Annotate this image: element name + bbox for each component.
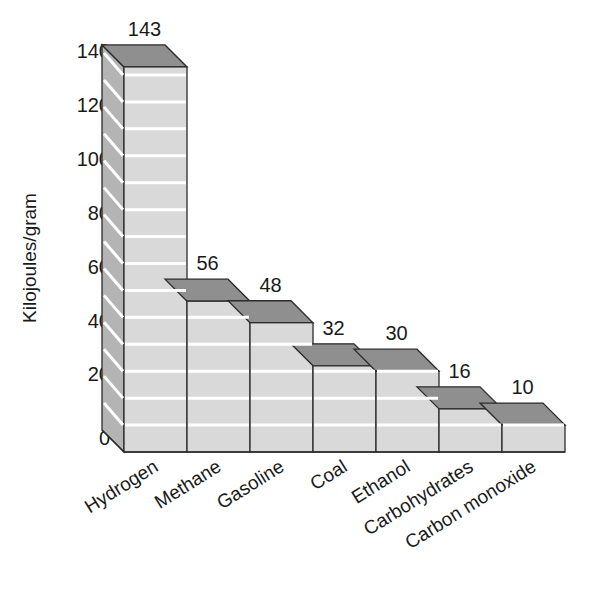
bar-value-label: 48 <box>259 274 281 296</box>
bar-chart-figure: 020406080100120140 Kilojoules/gram 14356… <box>0 0 610 614</box>
chart-background <box>0 0 610 614</box>
y-axis-title: Kilojoules/gram <box>19 193 40 323</box>
bar-value-label: 143 <box>128 18 161 40</box>
bar-front-face <box>376 371 439 452</box>
bar-hydrogen <box>102 45 187 452</box>
bar-value-label: 56 <box>196 252 218 274</box>
bar-value-label: 32 <box>322 317 344 339</box>
bar-front-face <box>124 67 187 452</box>
chart-canvas: 020406080100120140 Kilojoules/gram 14356… <box>0 0 610 614</box>
bar-front-face <box>187 301 250 452</box>
bar-value-label: 30 <box>385 322 407 344</box>
bar-value-label: 10 <box>511 376 533 398</box>
y-axis-title-text: Kilojoules/gram <box>19 193 40 323</box>
bar-front-face <box>313 366 376 452</box>
bar-front-face <box>250 323 313 452</box>
bar-front-face <box>502 425 565 452</box>
bar-value-label: 16 <box>448 360 470 382</box>
bar-side-face <box>102 45 124 452</box>
